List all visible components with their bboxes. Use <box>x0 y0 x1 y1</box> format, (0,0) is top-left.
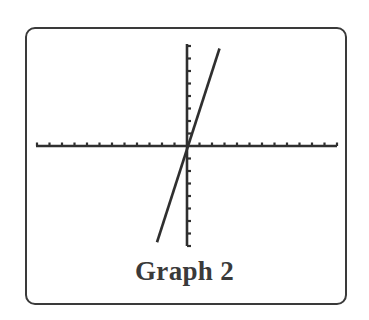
graph-caption: Graph 2 <box>0 256 369 287</box>
axes <box>36 44 337 246</box>
